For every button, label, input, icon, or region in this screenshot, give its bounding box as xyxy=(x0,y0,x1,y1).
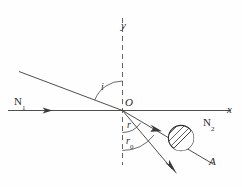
medium-n1-label: N1 xyxy=(14,96,25,110)
beam-circle-hatching xyxy=(162,114,200,158)
medium-n2-symbol: N xyxy=(203,116,211,128)
refracted-ray-primary xyxy=(123,111,214,165)
x-axis-label: x xyxy=(227,104,232,115)
angle-r0-subscript: 0 xyxy=(130,143,134,151)
refracted-ray-secondary-arrowhead xyxy=(165,160,177,174)
angle-r0-label: r0 xyxy=(126,136,133,149)
angle-r-label: r xyxy=(127,120,131,130)
angle-r-arc xyxy=(123,123,141,133)
ray-endpoint-label: A xyxy=(209,156,216,167)
refraction-diagram: y x O N1 N2 i r r0 A xyxy=(0,0,242,187)
medium-n2-subscript: 2 xyxy=(211,125,215,133)
medium-n1-symbol: N xyxy=(14,95,22,107)
medium-n2-label: N2 xyxy=(203,117,214,131)
angle-of-incidence-arc xyxy=(95,81,123,100)
incident-ray-line xyxy=(19,72,123,111)
medium-n1-subscript: 1 xyxy=(22,104,26,112)
origin-label: O xyxy=(125,97,133,108)
y-axis-label: y xyxy=(121,20,126,31)
angle-of-incidence-label: i xyxy=(101,82,104,92)
